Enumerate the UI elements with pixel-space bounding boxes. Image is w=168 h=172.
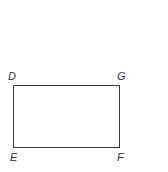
vertex-label-e: E [10, 152, 17, 163]
diagram-canvas: D G E F [0, 0, 168, 172]
vertex-label-g: G [117, 71, 126, 82]
rectangle-defg [13, 85, 120, 148]
vertex-label-f: F [117, 152, 124, 163]
vertex-label-d: D [8, 71, 16, 82]
